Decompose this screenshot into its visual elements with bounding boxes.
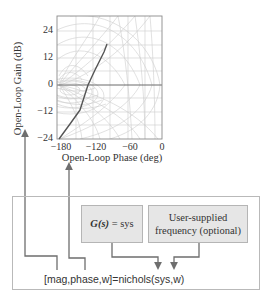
y-tick-24: 24 (31, 24, 53, 35)
y-axis-label: Open-Loop Gain (dB) (11, 44, 25, 132)
frequency-line-1: User-supplied (169, 212, 228, 223)
frequency-line-2: frequency (optional) (155, 225, 241, 236)
chart-grid (36, 15, 162, 139)
y-tick-0: 0 (31, 78, 53, 89)
sys-input-text: G(s) = sys (90, 217, 133, 230)
sys-variable: sys (120, 218, 133, 229)
x-axis-label: Open-Loop Phase (deg) (57, 152, 167, 163)
frequency-input-text: User-supplied frequency (optional) (155, 211, 241, 237)
sys-input-box: G(s) = sys (81, 205, 143, 243)
y-tick-12: 12 (31, 51, 53, 62)
y-axis-label-text: Open-Loop Gain (dB) (13, 41, 24, 134)
x-tick-neg60: −60 (115, 141, 145, 152)
frequency-input-box: User-supplied frequency (optional) (148, 205, 248, 243)
x-tick-neg180: −180 (46, 141, 76, 152)
x-tick-0: 0 (147, 141, 177, 152)
y-tick-neg12: −12 (31, 105, 53, 116)
nichols-command: [mag,phase,w]=nichols(sys,w) (44, 273, 184, 285)
x-tick-neg120: −120 (81, 141, 111, 152)
equals-sign: = (112, 218, 118, 229)
transfer-function-symbol: G(s) (90, 218, 109, 229)
